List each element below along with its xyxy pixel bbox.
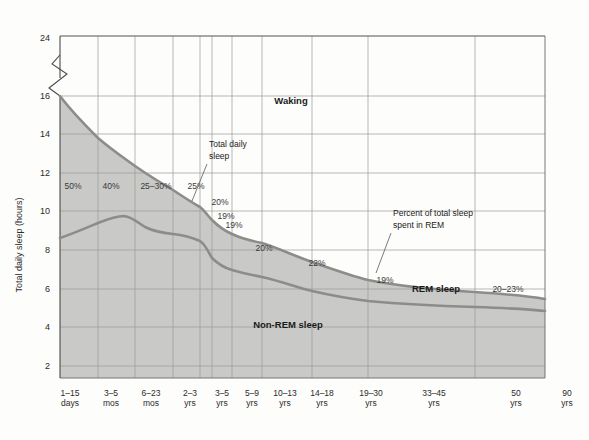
x-tick-6-line1: 10–13 <box>273 388 297 398</box>
x-tick-3-line1: 2–3 <box>183 388 197 398</box>
x-tick-2-line2: mos <box>143 398 159 408</box>
region-label-rem-sleep: REM sleep <box>412 283 460 294</box>
x-tick-9-line1: 33–45 <box>422 388 446 398</box>
y-tick-16: 16 <box>40 91 50 101</box>
region-label-waking: Waking <box>274 95 308 106</box>
pct-label-2: 25–30% <box>140 181 172 191</box>
x-tick-1-line2: mos <box>103 398 119 408</box>
y-tick-8: 8 <box>45 245 50 255</box>
y-tick-4: 4 <box>45 322 50 332</box>
sleep-chart-figure: 2 4 6 8 10 12 14 16 24 Total daily sleep… <box>0 0 589 440</box>
y-tick-2: 2 <box>45 361 50 371</box>
x-tick-7-line2: yrs <box>316 398 327 408</box>
x-tick-4-line1: 3–5 <box>215 388 229 398</box>
pct-label-10: 20–23% <box>492 284 524 294</box>
x-tick-11-line2: yrs <box>561 398 572 408</box>
pct-label-0: 50% <box>64 181 81 191</box>
total-daily-sleep-callout-line2: sleep <box>209 151 230 161</box>
x-tick-9-line2: yrs <box>428 398 439 408</box>
total-daily-sleep-callout-line1: Total daily <box>209 139 248 149</box>
y-tick-10: 10 <box>40 206 50 216</box>
x-tick-10-line2: yrs <box>510 398 521 408</box>
x-tick-4-line2: yrs <box>216 398 227 408</box>
x-tick-3-line2: yrs <box>184 398 195 408</box>
y-tick-6: 6 <box>45 284 50 294</box>
y-tick-14: 14 <box>40 129 50 139</box>
x-tick-6-line2: yrs <box>279 398 290 408</box>
pct-label-8: 22% <box>308 258 325 268</box>
x-tick-0-line1: 1–15 <box>61 388 80 398</box>
x-tick-2-line1: 6–23 <box>142 388 161 398</box>
x-tick-7-line1: 14–18 <box>310 388 334 398</box>
chart-svg: 2 4 6 8 10 12 14 16 24 Total daily sleep… <box>0 0 589 440</box>
x-tick-5-line2: yrs <box>246 398 257 408</box>
y-axis-title: Total daily sleep (hours) <box>14 197 24 292</box>
x-tick-11-line1: 90 <box>562 388 572 398</box>
x-tick-8-line2: yrs <box>365 398 376 408</box>
pct-label-7: 20% <box>255 243 272 253</box>
pct-label-6: 19% <box>225 220 242 230</box>
y-tick-12: 12 <box>40 168 50 178</box>
x-tick-10-line1: 50 <box>511 388 521 398</box>
pct-label-1: 40% <box>102 181 119 191</box>
rem-percent-callout-line1: Percent of total sleep <box>393 208 473 218</box>
rem-percent-callout-line2: spent in REM <box>393 220 444 230</box>
pct-label-9: 19% <box>376 275 393 285</box>
pct-label-4: 20% <box>211 197 228 207</box>
x-tick-5-line1: 5–9 <box>245 388 259 398</box>
region-label-non-rem-sleep: Non-REM sleep <box>253 319 323 330</box>
pct-label-3: 25% <box>187 181 204 191</box>
x-tick-8-line1: 19–30 <box>359 388 383 398</box>
x-tick-1-line1: 3–5 <box>104 388 118 398</box>
x-tick-0-line2: days <box>61 398 79 408</box>
y-tick-24: 24 <box>40 33 50 43</box>
